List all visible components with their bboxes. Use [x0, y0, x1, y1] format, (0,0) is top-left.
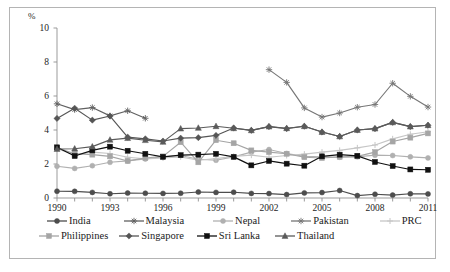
legend-marker-icon	[196, 231, 218, 241]
data-point-marker	[204, 233, 209, 238]
y-tick-label: 4	[27, 125, 49, 135]
chart-frame: % 02468101990199319961999200220052008201…	[9, 7, 436, 259]
legend-row-1: IndiaMalaysiaNepalPakistanPRC	[32, 213, 432, 228]
data-point-marker	[221, 218, 226, 223]
legend-item-label: Malaysia	[146, 215, 187, 227]
legend-item-label: Pakistan	[313, 215, 351, 227]
legend-item-malaysia[interactable]: Malaysia	[123, 215, 187, 227]
data-point-marker	[130, 217, 136, 223]
y-tick-label: 2	[27, 159, 49, 169]
legend-item-thailand[interactable]: Thailand	[274, 230, 336, 242]
legend-row-2: PhilippinesSingaporeSri LankaThailand	[32, 228, 432, 243]
top-cropped-text	[150, 0, 450, 7]
legend-marker-icon	[379, 216, 401, 226]
legend-item-singapore[interactable]: Singapore	[118, 230, 186, 242]
legend-item-label: Nepal	[235, 215, 262, 227]
y-tick-label: 10	[27, 23, 49, 33]
figure-container: % 02468101990199319961999200220052008201…	[0, 0, 450, 272]
legend-marker-icon	[274, 231, 296, 241]
legend-item-prc[interactable]: PRC	[379, 215, 424, 227]
legend-item-philippines[interactable]: Philippines	[38, 230, 110, 242]
legend-item-india[interactable]: India	[46, 215, 93, 227]
legend-marker-icon	[123, 216, 145, 226]
legend-marker-icon	[46, 216, 68, 226]
data-point-marker	[298, 217, 304, 223]
legend-item-nepal[interactable]: Nepal	[212, 215, 262, 227]
legend-item-label: Sri Lanka	[219, 230, 262, 242]
legend-marker-icon	[38, 231, 60, 241]
y-tick-label: 0	[27, 193, 49, 203]
legend-item-label: PRC	[402, 215, 424, 227]
legend-item-sri-lanka[interactable]: Sri Lanka	[196, 230, 262, 242]
legend-marker-icon	[118, 231, 140, 241]
legend-item-label: Singapore	[141, 230, 186, 242]
chart-legend: IndiaMalaysiaNepalPakistanPRC Philippine…	[32, 213, 432, 243]
legend-item-label: Thailand	[297, 230, 336, 242]
data-point-marker	[387, 218, 393, 224]
legend-marker-icon	[290, 216, 312, 226]
y-tick-label: 8	[27, 57, 49, 67]
legend-marker-icon	[212, 216, 234, 226]
legend-item-pakistan[interactable]: Pakistan	[290, 215, 351, 227]
legend-item-label: India	[69, 215, 93, 227]
data-point-marker	[55, 218, 60, 223]
data-point-marker	[126, 232, 132, 238]
y-tick-label: 6	[27, 91, 49, 101]
data-point-marker	[47, 233, 52, 238]
legend-item-label: Philippines	[61, 230, 110, 242]
